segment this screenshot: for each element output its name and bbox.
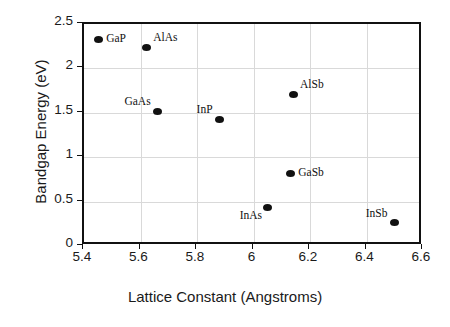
- gridline-vertical: [197, 24, 198, 242]
- plot-area: GaPAlAsGaAsInPAlSbGaSbInAsInSb: [82, 22, 421, 244]
- data-point: [215, 116, 224, 123]
- x-axis-tick-label: 6: [222, 250, 282, 265]
- data-point-label: GaSb: [298, 167, 324, 179]
- x-axis-tick-label: 6.6: [391, 250, 450, 265]
- y-axis-tick-label: 1.5: [13, 103, 73, 118]
- gridline-vertical: [310, 24, 311, 242]
- gridline-vertical: [141, 24, 142, 242]
- x-axis-tick-label: 5.6: [109, 250, 169, 265]
- gridline-horizontal: [84, 113, 419, 114]
- y-axis-tick-label: 1: [13, 147, 73, 162]
- data-point: [142, 44, 151, 51]
- y-axis-tick-label: 0.5: [13, 192, 73, 207]
- data-point: [263, 204, 272, 211]
- scatter-chart-figure: Bandgap Energy (eV) Lattice Constant (An…: [0, 0, 450, 327]
- data-point-label: GaAs: [124, 96, 150, 108]
- data-point: [286, 170, 295, 177]
- data-point: [289, 91, 298, 98]
- data-point-label: AlAs: [153, 32, 177, 44]
- data-point-label: InP: [197, 104, 213, 116]
- data-point-label: InAs: [240, 210, 262, 222]
- x-axis-tick-label: 5.8: [165, 250, 225, 265]
- gridline-horizontal: [84, 68, 419, 69]
- y-axis-tick-label: 0: [13, 236, 73, 251]
- data-point: [153, 108, 162, 115]
- gridline-horizontal: [84, 157, 419, 158]
- data-point-label: AlSb: [300, 79, 324, 91]
- data-point-label: InSb: [366, 208, 388, 220]
- x-axis-tick-label: 6.4: [335, 250, 395, 265]
- data-point: [390, 219, 399, 226]
- y-axis-tick-label: 2: [13, 58, 73, 73]
- gridline-horizontal: [84, 202, 419, 203]
- y-axis-tick-label: 2.5: [13, 14, 73, 29]
- x-axis-title: Lattice Constant (Angstroms): [0, 288, 450, 305]
- data-point: [94, 36, 103, 43]
- x-axis-tick-label: 6.2: [278, 250, 338, 265]
- y-axis-title: Bandgap Energy (eV): [32, 12, 49, 252]
- data-point-label: GaP: [106, 33, 126, 45]
- x-axis-tick-label: 5.4: [52, 250, 112, 265]
